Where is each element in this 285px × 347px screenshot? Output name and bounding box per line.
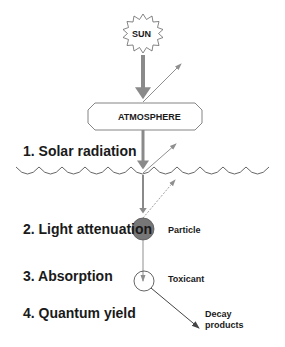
sun-label: SUN [132, 29, 151, 39]
step-4-label: 4. Quantum yield [23, 305, 136, 321]
decay-label-line2: products [205, 320, 244, 330]
step-3-label: 3. Absorption [23, 268, 113, 284]
step-2-label: 2. Light attenuation [23, 221, 152, 237]
decay-label-line1: Decay [205, 309, 232, 319]
toxicant-label: Toxicant [168, 274, 204, 284]
particle-label: Particle [168, 225, 201, 235]
water-surface-waves [16, 167, 269, 174]
atmosphere-label: ATMOSPHERE [118, 112, 181, 122]
decay-arrow [151, 288, 199, 328]
particle-scatter-arrow [143, 180, 175, 218]
photolysis-diagram [0, 0, 285, 347]
surface-reflection-arrow [143, 144, 176, 173]
step-1-label: 1. Solar radiation [23, 143, 137, 159]
atmosphere-reflection-arrow [143, 64, 181, 102]
